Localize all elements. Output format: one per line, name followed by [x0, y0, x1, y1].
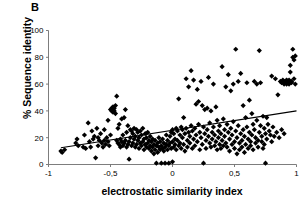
data-point: [234, 135, 239, 140]
data-point: [234, 151, 239, 156]
data-point: [203, 138, 208, 143]
figure-panel-b: B % Sequence identity electrostatic simi…: [0, 0, 305, 205]
data-point: [265, 122, 270, 127]
data-point: [228, 88, 233, 93]
data-point: [195, 139, 200, 144]
data-point: [288, 63, 293, 68]
y-tick-label: 20: [35, 134, 44, 143]
data-point: [187, 134, 192, 139]
data-point: [154, 161, 159, 166]
data-point: [255, 144, 260, 149]
data-point: [259, 134, 264, 139]
data-point: [236, 123, 241, 128]
data-point: [82, 132, 87, 137]
data-point: [191, 77, 196, 82]
data-point: [191, 136, 196, 141]
data-point: [236, 79, 241, 84]
data-point: [269, 73, 274, 78]
y-tick-label: 0: [39, 160, 44, 169]
data-point: [108, 132, 113, 137]
data-point: [86, 120, 91, 125]
data-point: [244, 124, 249, 129]
data-point: [242, 150, 247, 155]
data-point: [251, 147, 256, 152]
y-tick-label: 100: [30, 26, 44, 35]
data-point: [288, 69, 293, 74]
x-tick-label: -1: [45, 169, 53, 178]
data-point: [282, 131, 287, 136]
data-point: [200, 142, 205, 147]
data-point: [94, 126, 99, 131]
data-point: [267, 128, 272, 133]
data-point: [243, 142, 248, 147]
data-point: [207, 140, 212, 145]
data-point: [210, 136, 215, 141]
data-point: [273, 76, 278, 81]
data-point: [262, 126, 267, 131]
data-point: [211, 82, 216, 87]
data-point: [197, 130, 202, 135]
x-tick-label: 0,5: [229, 169, 241, 178]
data-point: [226, 130, 231, 135]
data-point: [213, 104, 218, 109]
data-point: [290, 47, 295, 52]
data-point: [263, 131, 268, 136]
data-point: [228, 126, 233, 131]
data-point: [105, 118, 110, 123]
data-point: [93, 155, 98, 160]
data-point: [269, 139, 274, 144]
y-tick-labels: 020406080100: [30, 26, 44, 169]
data-point: [233, 128, 238, 133]
data-point: [229, 132, 234, 137]
data-point: [88, 144, 93, 149]
data-point: [244, 80, 249, 85]
data-point: [264, 136, 269, 141]
data-point: [205, 127, 210, 132]
data-point: [203, 146, 208, 151]
data-point: [216, 135, 221, 140]
data-point: [201, 161, 206, 166]
data-point: [241, 127, 246, 132]
data-point: [238, 131, 243, 136]
data-point: [193, 132, 198, 137]
data-point: [251, 122, 256, 127]
data-point: [254, 118, 259, 123]
data-point: [222, 134, 227, 139]
data-point: [257, 48, 262, 53]
data-point: [195, 87, 200, 92]
data-point: [115, 126, 120, 131]
data-point: [233, 47, 238, 52]
data-point: [198, 135, 203, 140]
data-point: [198, 79, 203, 84]
data-point: [197, 147, 202, 152]
data-point: [125, 123, 130, 128]
data-point: [227, 136, 232, 141]
data-point: [247, 98, 252, 103]
data-point: [185, 144, 190, 149]
data-point: [211, 124, 216, 129]
data-point: [89, 128, 94, 133]
y-tick-label: 80: [35, 53, 44, 62]
data-point: [98, 131, 103, 136]
data-point: [231, 82, 236, 87]
data-point: [277, 135, 282, 140]
data-point: [176, 96, 181, 101]
data-point: [181, 115, 186, 120]
data-point: [186, 84, 191, 89]
data-point: [114, 94, 119, 99]
data-point: [213, 139, 218, 144]
data-point: [120, 132, 125, 137]
data-point: [202, 131, 207, 136]
x-tick-labels: -1-0,500,51: [45, 169, 299, 178]
data-point-markers: [58, 47, 298, 166]
data-point: [102, 127, 107, 132]
data-point: [263, 161, 268, 166]
data-point: [208, 108, 213, 113]
data-point: [232, 146, 237, 151]
y-tick-label: 60: [35, 80, 44, 89]
data-point: [206, 134, 211, 139]
data-point: [74, 136, 79, 141]
data-point: [222, 127, 227, 132]
data-point: [127, 157, 132, 162]
data-point: [182, 149, 187, 154]
